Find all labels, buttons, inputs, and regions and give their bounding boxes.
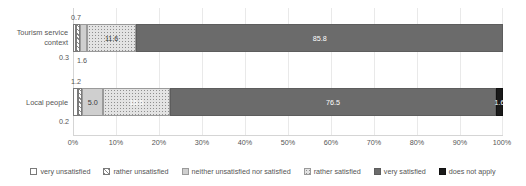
segment-value-label: 1.6 <box>493 98 506 107</box>
legend-item-neither-nor: neither unsatisfied nor satisfied <box>182 167 291 176</box>
callout-neither-nor-tourism: 1.6 <box>77 56 87 65</box>
legend-label: does not apply <box>449 167 496 176</box>
y-axis-category-labels: Tourism service context Local people <box>0 8 68 136</box>
x-tick-50: 50% <box>281 138 295 147</box>
segment-rather-satisfied: 15.5 <box>103 88 169 116</box>
category-label-line-1: Tourism service <box>0 28 68 38</box>
legend-swatch-very-satisfied-icon <box>374 168 381 175</box>
legend-label: neither unsatisfied nor satisfied <box>192 167 291 176</box>
bar-tourism-service-context: 11.6 85.8 <box>73 24 503 52</box>
category-label-line-1: Local people <box>0 98 68 108</box>
segment-value-label: 85.8 <box>137 34 502 43</box>
callout-rather-unsatisfied-tourism: 0.3 <box>59 53 69 62</box>
legend-label: very satisfied <box>384 167 426 176</box>
legend-swatch-very-unsatisfied-icon <box>30 168 37 175</box>
stacked-bar-chart: Tourism service context Local people 11.… <box>0 0 526 186</box>
x-tick-60: 60% <box>324 138 338 147</box>
segment-very-satisfied: 76.5 <box>170 88 497 116</box>
category-label-line-2: context <box>0 38 68 48</box>
category-label-tourism-service-context: Tourism service context <box>0 28 68 48</box>
segment-does-not-apply: 1.6 <box>496 88 503 116</box>
legend-swatch-rather-unsatisfied-icon <box>103 168 110 175</box>
legend-item-rather-satisfied: rather satisfied <box>304 167 361 176</box>
callout-very-unsatisfied-local: 1.2 <box>71 77 81 86</box>
x-tick-90: 90% <box>453 138 467 147</box>
callout-rather-unsatisfied-local: 0.2 <box>59 117 69 126</box>
x-tick-0: 0% <box>68 138 78 147</box>
legend-label: rather unsatisfied <box>113 167 168 176</box>
x-tick-40: 40% <box>238 138 252 147</box>
segment-value-label: 15.5 <box>104 98 168 107</box>
segment-value-label: 5.0 <box>83 98 102 107</box>
x-axis-line <box>73 135 503 136</box>
x-tick-20: 20% <box>152 138 166 147</box>
x-tick-100: 100% <box>493 138 511 147</box>
legend-label: very unsatisfied <box>40 167 90 176</box>
legend-item-very-satisfied: very satisfied <box>374 167 426 176</box>
segment-very-satisfied: 85.8 <box>136 24 503 52</box>
x-tick-70: 70% <box>367 138 381 147</box>
segment-value-label: 76.5 <box>171 98 496 107</box>
category-label-local-people: Local people <box>0 98 68 108</box>
segment-neither-nor: 5.0 <box>82 88 103 116</box>
segment-value-label: 11.6 <box>88 34 136 43</box>
legend-swatch-rather-satisfied-icon <box>304 168 311 175</box>
legend-swatch-does-not-apply-icon <box>439 168 446 175</box>
plot-area: 11.6 85.8 0.7 0.3 1.6 5.0 15.5 76.5 1.6 <box>73 8 503 136</box>
legend-item-very-unsatisfied: very unsatisfied <box>30 167 90 176</box>
legend-item-does-not-apply: does not apply <box>439 167 496 176</box>
x-tick-10: 10% <box>109 138 123 147</box>
segment-rather-satisfied: 11.6 <box>87 24 137 52</box>
segment-neither-nor <box>80 24 87 52</box>
legend-swatch-neither-nor-icon <box>182 168 189 175</box>
callout-very-unsatisfied-tourism: 0.7 <box>71 13 81 22</box>
x-axis-tick-labels: 0% 10% 20% 30% 40% 50% 60% 70% 80% 90% 1… <box>73 138 503 150</box>
chart-legend: very unsatisfied rather unsatisfied neit… <box>0 162 526 180</box>
legend-label: rather satisfied <box>314 167 361 176</box>
legend-item-rather-unsatisfied: rather unsatisfied <box>103 167 168 176</box>
x-tick-80: 80% <box>410 138 424 147</box>
bar-local-people: 5.0 15.5 76.5 1.6 <box>73 88 503 116</box>
x-tick-30: 30% <box>195 138 209 147</box>
